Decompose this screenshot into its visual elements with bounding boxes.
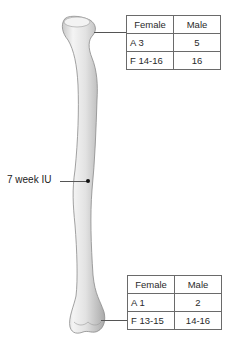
header-male: Male xyxy=(174,16,221,34)
header-female: Female xyxy=(128,276,175,294)
cell-male: 5 xyxy=(174,34,221,52)
bone-shape xyxy=(62,16,104,333)
cell-female: A 3 xyxy=(127,34,174,52)
cell-female: F 14-16 xyxy=(127,52,174,70)
cell-male: 16 xyxy=(174,52,221,70)
primary-center-dot xyxy=(86,179,90,183)
proximal-leader-line xyxy=(94,32,126,33)
cell-female: F 13-15 xyxy=(128,312,175,330)
cell-male: 2 xyxy=(175,294,222,312)
primary-center-leader-line xyxy=(60,181,87,182)
distal-ossification-table: Female Male A 1 2 F 13-15 14-16 xyxy=(127,275,222,330)
distal-leader-line xyxy=(101,320,128,321)
cell-female: A 1 xyxy=(128,294,175,312)
header-male: Male xyxy=(175,276,222,294)
primary-center-label: 7 week IU xyxy=(7,174,51,185)
proximal-ossification-table: Female Male A 3 5 F 14-16 16 xyxy=(126,15,221,70)
cell-male: 14-16 xyxy=(175,312,222,330)
proximal-head xyxy=(64,17,90,27)
header-female: Female xyxy=(127,16,174,34)
